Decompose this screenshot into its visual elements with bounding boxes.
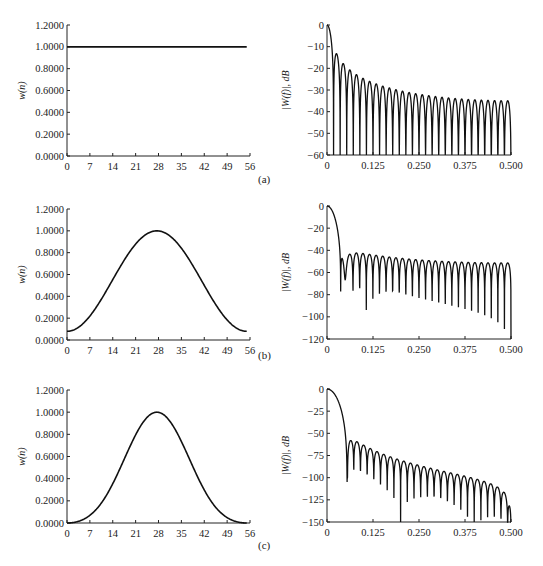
svg-text:0.2000: 0.2000 <box>35 129 64 140</box>
svg-text:56: 56 <box>245 161 256 172</box>
svg-text:0.125: 0.125 <box>361 344 385 355</box>
svg-text:0.2000: 0.2000 <box>35 313 64 324</box>
svg-text:w(n): w(n) <box>16 265 28 284</box>
svg-text:1.0000: 1.0000 <box>35 225 64 236</box>
svg-text:−40: −40 <box>308 106 324 117</box>
figure-canvas: 0.00000.20000.40000.60000.80001.00001.20… <box>0 0 543 566</box>
svg-text:0.250: 0.250 <box>407 527 431 538</box>
svg-text:0.125: 0.125 <box>361 160 385 171</box>
svg-text:0.250: 0.250 <box>407 160 431 171</box>
svg-text:49: 49 <box>222 161 233 172</box>
svg-text:0.8000: 0.8000 <box>35 429 64 440</box>
svg-text:0.375: 0.375 <box>453 527 477 538</box>
svg-text:−120: −120 <box>302 334 324 345</box>
svg-text:0.125: 0.125 <box>361 527 385 538</box>
svg-text:35: 35 <box>176 528 187 539</box>
svg-text:1.0000: 1.0000 <box>35 41 64 52</box>
svg-text:−30: −30 <box>308 85 324 96</box>
svg-text:14: 14 <box>108 345 119 356</box>
svg-text:0.500: 0.500 <box>499 527 523 538</box>
svg-text:1.2000: 1.2000 <box>35 204 64 215</box>
svg-text:|W(f)|, dB: |W(f)|, dB <box>280 70 292 109</box>
svg-text:14: 14 <box>108 528 119 539</box>
svg-text:0: 0 <box>319 384 324 395</box>
svg-text:|W(f)|, dB: |W(f)|, dB <box>280 436 292 475</box>
svg-text:35: 35 <box>176 161 187 172</box>
svg-text:0.8000: 0.8000 <box>35 63 64 74</box>
svg-text:7: 7 <box>87 161 92 172</box>
svg-text:0: 0 <box>64 528 69 539</box>
svg-text:49: 49 <box>222 345 233 356</box>
svg-text:42: 42 <box>199 528 210 539</box>
svg-text:0.4000: 0.4000 <box>35 473 64 484</box>
svg-text:−125: −125 <box>302 494 324 505</box>
svg-text:−20: −20 <box>308 223 324 234</box>
svg-text:0.375: 0.375 <box>453 160 477 171</box>
svg-text:0.6000: 0.6000 <box>35 451 64 462</box>
svg-text:−60: −60 <box>308 267 324 278</box>
svg-text:−75: −75 <box>308 450 324 461</box>
svg-text:0.500: 0.500 <box>499 160 523 171</box>
svg-text:1.2000: 1.2000 <box>35 385 64 396</box>
svg-text:−40: −40 <box>308 245 324 256</box>
svg-text:−20: −20 <box>308 63 324 74</box>
svg-text:−25: −25 <box>308 406 324 417</box>
svg-text:−60: −60 <box>308 150 324 161</box>
svg-text:0.375: 0.375 <box>453 344 477 355</box>
svg-text:0.0000: 0.0000 <box>35 335 64 346</box>
svg-text:|W(f)|, dB: |W(f)|, dB <box>280 253 292 292</box>
svg-text:−10: −10 <box>308 41 324 52</box>
svg-text:28: 28 <box>153 161 164 172</box>
svg-text:56: 56 <box>245 345 256 356</box>
svg-text:28: 28 <box>153 345 164 356</box>
svg-text:21: 21 <box>130 345 141 356</box>
svg-text:0.6000: 0.6000 <box>35 269 64 280</box>
svg-text:−80: −80 <box>308 289 324 300</box>
svg-text:−150: −150 <box>302 517 324 528</box>
svg-text:0: 0 <box>324 527 329 538</box>
panel-label-b: (b) <box>258 349 271 361</box>
svg-text:0: 0 <box>319 20 324 31</box>
svg-text:0.0000: 0.0000 <box>35 151 64 162</box>
svg-text:0.4000: 0.4000 <box>35 291 64 302</box>
svg-text:7: 7 <box>87 528 92 539</box>
svg-text:−100: −100 <box>302 472 324 483</box>
svg-text:w(n): w(n) <box>16 81 28 100</box>
svg-text:1.2000: 1.2000 <box>35 20 64 31</box>
svg-text:0: 0 <box>64 345 69 356</box>
svg-text:0.250: 0.250 <box>407 344 431 355</box>
svg-text:56: 56 <box>245 528 256 539</box>
svg-text:35: 35 <box>176 345 187 356</box>
svg-text:−50: −50 <box>308 128 324 139</box>
svg-text:0.0000: 0.0000 <box>35 518 64 529</box>
svg-text:0: 0 <box>64 161 69 172</box>
svg-text:42: 42 <box>199 161 210 172</box>
svg-text:49: 49 <box>222 528 233 539</box>
svg-text:28: 28 <box>153 528 164 539</box>
svg-text:0: 0 <box>324 344 329 355</box>
svg-text:0.8000: 0.8000 <box>35 247 64 258</box>
svg-text:w(n): w(n) <box>16 447 28 466</box>
svg-text:1.0000: 1.0000 <box>35 407 64 418</box>
svg-text:−100: −100 <box>302 311 324 322</box>
panel-label-c: (c) <box>258 539 270 551</box>
svg-text:42: 42 <box>199 345 210 356</box>
svg-text:0: 0 <box>324 160 329 171</box>
svg-text:−50: −50 <box>308 428 324 439</box>
svg-text:0.4000: 0.4000 <box>35 107 64 118</box>
svg-text:21: 21 <box>130 528 141 539</box>
panel-label-a: (a) <box>258 173 270 185</box>
svg-text:0.2000: 0.2000 <box>35 495 64 506</box>
svg-text:0.6000: 0.6000 <box>35 85 64 96</box>
svg-text:0: 0 <box>319 201 324 212</box>
svg-text:21: 21 <box>130 161 141 172</box>
svg-text:7: 7 <box>87 345 92 356</box>
svg-text:14: 14 <box>108 161 119 172</box>
svg-text:0.500: 0.500 <box>499 344 523 355</box>
